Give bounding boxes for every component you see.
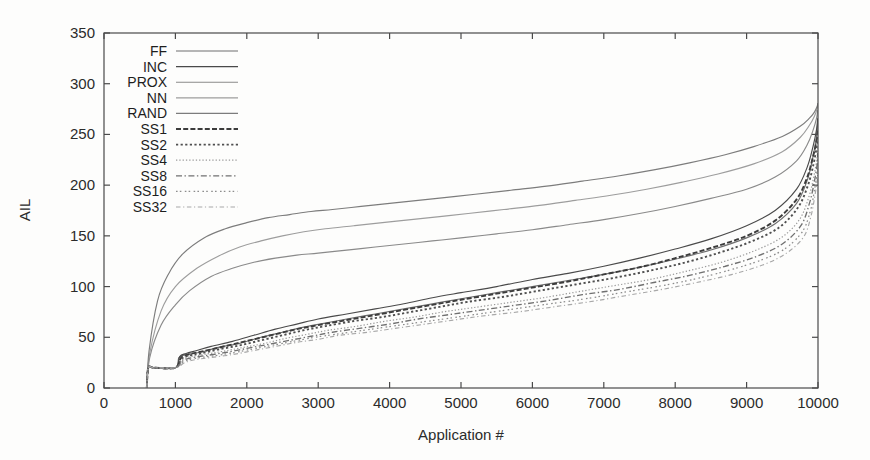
legend-label-ss4: SS4	[141, 152, 168, 168]
legend-label-rand: RAND	[127, 105, 167, 121]
x-tick-label: 0	[100, 394, 108, 411]
x-tick-label: 2000	[230, 394, 263, 411]
legend-label-prox: PROX	[127, 74, 167, 90]
legend-label-ss1: SS1	[141, 121, 168, 137]
legend-label-nn: NN	[147, 90, 167, 106]
x-tick-label: 5000	[444, 394, 477, 411]
legend-label-ss16: SS16	[133, 183, 167, 199]
series-line-inc	[147, 118, 818, 388]
legend-label-inc: INC	[143, 59, 167, 75]
x-tick-label: 4000	[373, 394, 406, 411]
series-line-ss32	[147, 165, 818, 388]
y-tick-label: 300	[70, 75, 95, 92]
legend-label-ss2: SS2	[141, 137, 168, 153]
plot-frame	[104, 33, 818, 388]
y-axis-title: AIL	[16, 199, 33, 222]
y-tick-label: 200	[70, 176, 95, 193]
x-tick-label: 10000	[797, 394, 839, 411]
y-tick-label: 350	[70, 24, 95, 41]
chart-legend: FFINCPROXNNRANDSS1SS2SS4SS8SS16SS32	[127, 43, 238, 215]
x-axis-title: Application #	[418, 426, 505, 443]
y-tick-label: 100	[70, 278, 95, 295]
x-tick-label: 3000	[302, 394, 335, 411]
chart-curves	[147, 103, 818, 388]
series-line-ss8	[147, 153, 818, 388]
x-tick-label: 7000	[587, 394, 620, 411]
x-tick-label: 6000	[516, 394, 549, 411]
chart-figure: 0100020003000400050006000700080009000100…	[0, 0, 870, 460]
y-tick-label: 150	[70, 227, 95, 244]
y-tick-label: 50	[78, 328, 95, 345]
x-tick-label: 8000	[659, 394, 692, 411]
x-tick-label: 1000	[159, 394, 192, 411]
chart-svg: 0100020003000400050006000700080009000100…	[0, 0, 870, 460]
legend-label-ff: FF	[150, 43, 167, 59]
series-line-ss1	[147, 130, 818, 388]
x-tick-label: 9000	[730, 394, 763, 411]
y-tick-label: 0	[87, 379, 95, 396]
legend-label-ss32: SS32	[133, 199, 167, 215]
legend-label-ss8: SS8	[141, 168, 168, 184]
y-axis-ticks: 050100150200250300350	[70, 24, 818, 396]
y-tick-label: 250	[70, 125, 95, 142]
